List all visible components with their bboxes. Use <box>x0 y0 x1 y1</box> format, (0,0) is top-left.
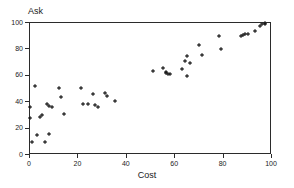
data-point <box>93 103 97 107</box>
data-point <box>168 72 172 76</box>
x-tick-mark <box>126 154 127 158</box>
y-tick-mark <box>25 75 29 76</box>
data-point <box>151 69 155 73</box>
data-point <box>57 86 61 90</box>
data-point <box>219 47 223 51</box>
y-tick-label: 40 <box>1 98 23 105</box>
data-point <box>86 102 90 106</box>
data-point <box>180 67 184 71</box>
y-tick-mark <box>25 128 29 129</box>
data-point <box>105 94 109 98</box>
data-point <box>38 115 42 119</box>
x-tick-label: 60 <box>164 160 184 167</box>
data-point <box>40 113 44 117</box>
data-point <box>47 104 51 108</box>
data-point <box>188 61 192 65</box>
x-tick-mark <box>29 154 30 158</box>
x-tick-label: 80 <box>213 160 233 167</box>
data-point <box>260 22 264 26</box>
data-point <box>241 33 245 37</box>
data-point <box>239 34 243 38</box>
data-point <box>28 105 32 109</box>
data-point <box>263 22 267 26</box>
data-point <box>246 32 250 36</box>
data-point <box>59 95 63 99</box>
scatter-plot-figure: Ask Cost 020406080100020406080100 <box>0 0 294 188</box>
data-point <box>91 92 95 96</box>
y-tick-label: 100 <box>1 19 23 26</box>
data-point <box>263 21 267 25</box>
y-tick-mark <box>25 101 29 102</box>
y-tick-label: 80 <box>1 45 23 52</box>
x-tick-mark <box>223 154 224 158</box>
data-point <box>161 66 165 70</box>
data-point <box>62 112 66 116</box>
data-point <box>197 43 201 47</box>
data-point <box>185 74 189 78</box>
data-point <box>43 140 47 144</box>
data-point <box>96 105 100 109</box>
data-point <box>35 133 39 137</box>
data-point <box>81 102 85 106</box>
x-tick-label: 100 <box>261 160 281 167</box>
y-tick-label: 60 <box>1 71 23 78</box>
x-axis-label: Cost <box>0 170 294 180</box>
data-point <box>183 59 187 63</box>
data-point <box>28 116 32 120</box>
data-point <box>185 54 189 58</box>
data-point <box>164 71 168 75</box>
y-tick-label: 20 <box>1 124 23 131</box>
data-point <box>200 53 204 57</box>
y-axis-label: Ask <box>28 6 43 16</box>
data-point <box>47 132 51 136</box>
x-tick-mark <box>174 154 175 158</box>
x-tick-label: 40 <box>116 160 136 167</box>
x-tick-label: 20 <box>67 160 87 167</box>
data-point <box>164 70 168 74</box>
plot-area <box>29 22 271 154</box>
x-tick-mark <box>271 154 272 158</box>
data-point <box>50 105 54 109</box>
data-point <box>217 34 221 38</box>
data-point <box>166 72 170 76</box>
data-point <box>253 29 257 33</box>
data-point <box>243 32 247 36</box>
data-point <box>45 102 49 106</box>
data-point <box>33 84 37 88</box>
data-point <box>258 24 262 28</box>
y-tick-mark <box>25 48 29 49</box>
y-tick-label: 0 <box>1 151 23 158</box>
data-point <box>113 99 117 103</box>
x-tick-mark <box>77 154 78 158</box>
y-tick-mark <box>25 22 29 23</box>
data-point <box>30 140 34 144</box>
data-point <box>79 86 83 90</box>
data-point <box>103 91 107 95</box>
x-tick-label: 0 <box>19 160 39 167</box>
